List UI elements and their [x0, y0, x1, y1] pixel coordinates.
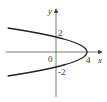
- x-axis-label: x: [97, 55, 102, 65]
- tick-label-y-neg2: -2: [58, 67, 66, 77]
- origin-label: 0: [48, 54, 53, 64]
- tick-label-y-2: 2: [58, 28, 63, 38]
- parabola-graph: y x 0 2 -2 4: [0, 0, 107, 102]
- tick-label-x-4: 4: [86, 55, 91, 65]
- y-axis-label: y: [47, 6, 52, 16]
